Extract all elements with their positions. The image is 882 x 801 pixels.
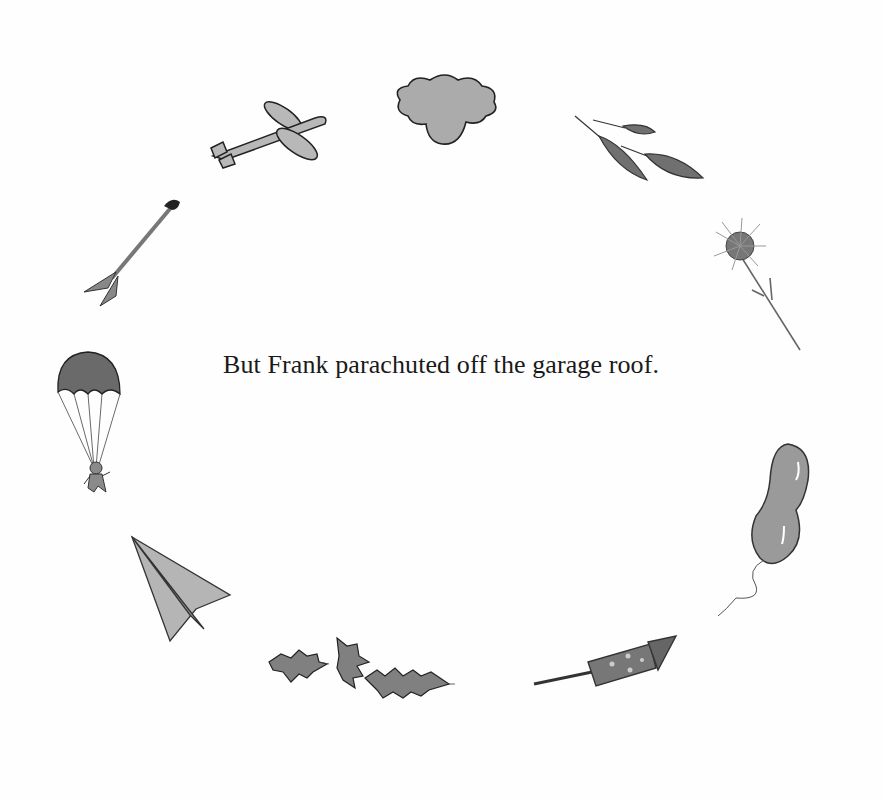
airplane-illustration [205, 98, 335, 168]
cloud-illustration [390, 70, 500, 148]
book-page: But Frank parachuted off the garage roof… [0, 0, 882, 801]
paper-airplane-illustration [130, 535, 235, 645]
rocket-illustration [530, 632, 680, 692]
parachute-figure-illustration [54, 350, 124, 495]
holly-leaves-illustration [265, 632, 455, 702]
leaves-illustration [573, 112, 708, 187]
balloon-illustration [716, 440, 816, 620]
dandelion-illustration [712, 218, 807, 358]
arrow-illustration [82, 196, 182, 308]
